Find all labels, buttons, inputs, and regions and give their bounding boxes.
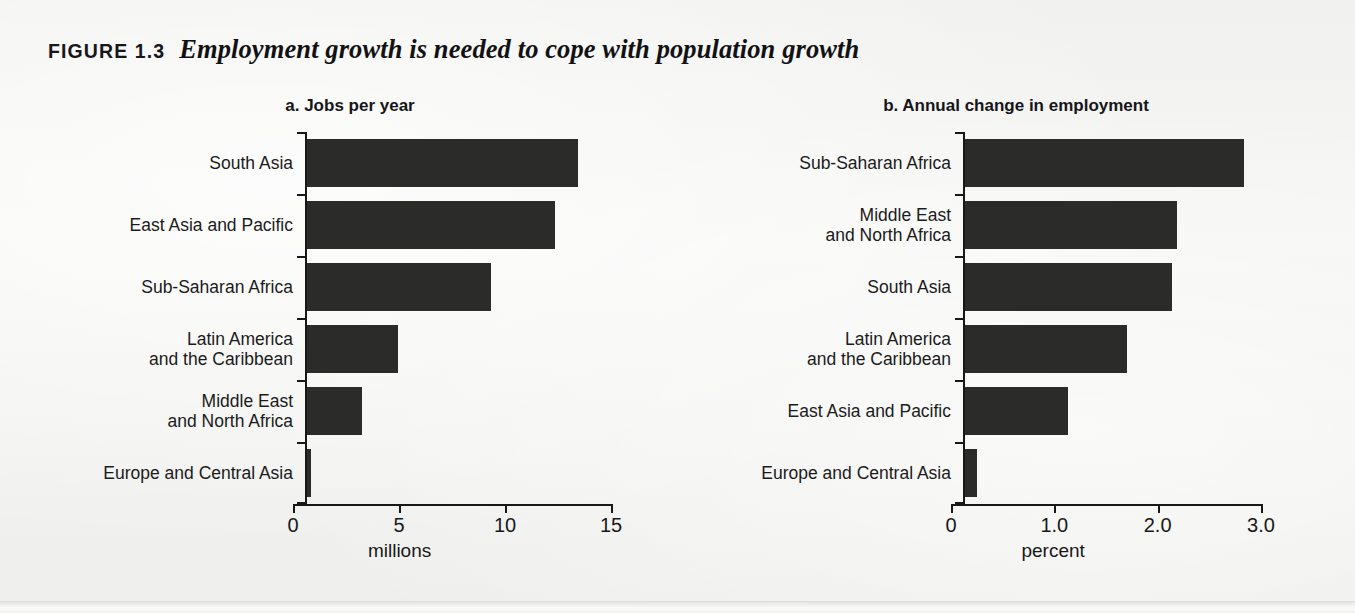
- axis-row-tick: [955, 442, 964, 444]
- bar: [307, 449, 311, 497]
- axis-row-tick: [297, 194, 306, 196]
- figure-number: FIGURE 1.3: [48, 40, 165, 63]
- figure-title: Employment growth is needed to cope with…: [179, 34, 859, 65]
- bar-row: Sub-Saharan Africa: [716, 132, 1316, 194]
- bar: [307, 263, 491, 311]
- axis-row-tick: [955, 256, 964, 258]
- bar-category-label: Europe and Central Asia: [60, 463, 305, 483]
- bar: [965, 387, 1068, 435]
- bar-row: Sub-Saharan Africa: [60, 256, 640, 318]
- panel-a-axis-ticklabels: 051015: [60, 504, 640, 534]
- bar-row: South Asia: [60, 132, 640, 194]
- axis-row-tick: [955, 380, 964, 382]
- axis-tick-label: 0: [945, 514, 956, 537]
- bar-track: [963, 318, 1275, 380]
- bar: [307, 201, 555, 249]
- bar: [965, 139, 1244, 187]
- bar-row: South Asia: [716, 256, 1316, 318]
- page-bottom-edge: [0, 601, 1355, 613]
- bar-row: East Asia and Pacific: [60, 194, 640, 256]
- bar: [965, 449, 977, 497]
- bar-row: Latin America and the Caribbean: [716, 318, 1316, 380]
- axis-row-tick: [297, 380, 306, 382]
- axis-row-tick: [297, 442, 306, 444]
- panel-b-axis-ticklabels: 01.02.03.0: [716, 504, 1316, 534]
- bar-track: [305, 194, 625, 256]
- bar: [965, 201, 1177, 249]
- axis-tick-label: 10: [494, 514, 516, 537]
- axis-row-tick: [297, 318, 306, 320]
- panel-a-title: a. Jobs per year: [60, 96, 640, 116]
- bar-category-label: Latin America and the Caribbean: [716, 329, 963, 369]
- axis-tick-label: 2.0: [1144, 514, 1172, 537]
- bar-track: [963, 194, 1275, 256]
- bar: [965, 263, 1172, 311]
- panel-a-bar-rows: South AsiaEast Asia and PacificSub-Sahar…: [60, 132, 640, 504]
- bar-category-label: Sub-Saharan Africa: [60, 277, 305, 297]
- panel-a-plot: South AsiaEast Asia and PacificSub-Sahar…: [60, 132, 640, 562]
- bar-track: [963, 132, 1275, 194]
- axis-row-tick: [955, 194, 964, 196]
- panel-a: a. Jobs per year South AsiaEast Asia and…: [60, 96, 640, 562]
- panel-b-title: b. Annual change in employment: [716, 96, 1316, 116]
- bar: [307, 139, 578, 187]
- bar-row: East Asia and Pacific: [716, 380, 1316, 442]
- bar-track: [305, 442, 625, 504]
- bar-track: [305, 132, 625, 194]
- bar-row: Europe and Central Asia: [716, 442, 1316, 504]
- panel-a-axis-label: millions: [60, 540, 611, 562]
- axis-tick-label: 1.0: [1040, 514, 1068, 537]
- bar: [307, 387, 362, 435]
- axis-row-tick: [297, 256, 306, 258]
- panel-b: b. Annual change in employment Sub-Sahar…: [716, 96, 1316, 562]
- bar-category-label: Latin America and the Caribbean: [60, 329, 305, 369]
- bar: [307, 325, 398, 373]
- axis-tick-label: 0: [287, 514, 298, 537]
- axis-row-tick: [955, 318, 964, 320]
- bar-row: Middle East and North Africa: [60, 380, 640, 442]
- axis-row-tick: [297, 132, 306, 134]
- bar-category-label: Middle East and North Africa: [716, 205, 963, 245]
- axis-tick-label: 15: [600, 514, 622, 537]
- panel-b-bar-rows: Sub-Saharan AfricaMiddle East and North …: [716, 132, 1316, 504]
- bar-row: Latin America and the Caribbean: [60, 318, 640, 380]
- bar-category-label: East Asia and Pacific: [60, 215, 305, 235]
- bar-category-label: East Asia and Pacific: [716, 401, 963, 421]
- bar-row: Middle East and North Africa: [716, 194, 1316, 256]
- bar-track: [305, 318, 625, 380]
- axis-tick-label: 5: [393, 514, 404, 537]
- bar-track: [963, 442, 1275, 504]
- figure-header: FIGURE 1.3 Employment growth is needed t…: [48, 34, 859, 65]
- bar-track: [963, 256, 1275, 318]
- panel-b-axis-label: percent: [716, 540, 1261, 562]
- bar-category-label: South Asia: [716, 277, 963, 297]
- bar-track: [963, 380, 1275, 442]
- bar-category-label: Sub-Saharan Africa: [716, 153, 963, 173]
- axis-tick-label: 3.0: [1247, 514, 1275, 537]
- bar-category-label: Middle East and North Africa: [60, 391, 305, 431]
- bar: [965, 325, 1127, 373]
- axis-row-tick: [955, 132, 964, 134]
- panel-b-plot: Sub-Saharan AfricaMiddle East and North …: [716, 132, 1316, 562]
- bar-track: [305, 380, 625, 442]
- bar-track: [305, 256, 625, 318]
- bar-row: Europe and Central Asia: [60, 442, 640, 504]
- bar-category-label: Europe and Central Asia: [716, 463, 963, 483]
- bar-category-label: South Asia: [60, 153, 305, 173]
